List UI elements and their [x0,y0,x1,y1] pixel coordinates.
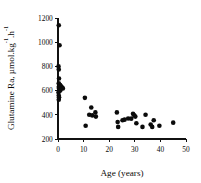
y-axis-ticks: 20040060080010001200 [38,14,58,144]
data-point [57,76,62,81]
data-point [171,120,176,125]
data-point [133,114,138,119]
data-point [57,43,62,48]
x-tick-label: 30 [131,145,139,154]
chart-figure: 20040060080010001200 01020304050 Age (ye… [0,0,201,183]
x-tick-label: 40 [157,145,165,154]
data-point [94,114,99,119]
y-tick-label: 200 [42,135,53,144]
y-axis-title-sup2: -1 [2,26,9,31]
data-point [134,121,139,126]
data-point [56,23,61,28]
data-point [83,96,88,101]
y-tick-label: 600 [42,86,53,95]
data-point [115,110,120,115]
x-axis-ticks: 01020304050 [56,139,190,154]
data-point [56,67,61,72]
data-point [56,97,61,102]
data-point [157,123,162,128]
data-point [89,105,94,110]
y-tick-label: 400 [42,111,53,120]
x-axis-title: Age (years) [100,168,143,178]
svg-text:Glutamine Ra, µmol.kg-1.h-1: Glutamine Ra, µmol.kg-1.h-1 [2,26,17,130]
x-tick-label: 0 [56,145,60,154]
data-point [140,125,145,130]
data-point [93,110,98,115]
data-points [56,23,175,129]
x-tick-label: 10 [80,145,88,154]
y-tick-label: 1000 [38,38,53,47]
data-point [115,120,120,125]
x-tick-label: 20 [106,145,114,154]
y-axis-title-main: Glutamine Ra, µmol.kg [6,43,16,130]
y-tick-label: 1200 [38,14,53,23]
data-point [151,118,156,123]
data-point [83,123,88,128]
y-tick-label: 800 [42,62,53,71]
scatter-plot: 20040060080010001200 01020304050 Age (ye… [0,0,201,183]
data-point [150,125,155,130]
data-point [116,125,121,130]
data-point [143,113,148,118]
y-axis-title: Glutamine Ra, µmol.kg-1.h-1 [2,26,17,130]
x-tick-label: 50 [182,145,190,154]
